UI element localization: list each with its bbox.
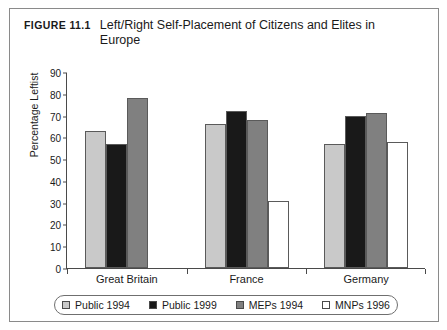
y-axis-tick-mark: [63, 116, 67, 117]
bar: [268, 201, 289, 269]
legend-item: Public 1994: [62, 299, 130, 311]
bar: [247, 120, 268, 268]
y-axis-tick-label: 10: [33, 242, 67, 253]
chart-legend: Public 1994Public 1999MEPs 1994MNPs 1996: [54, 295, 398, 315]
bar-group: [85, 72, 169, 268]
x-axis-group-label: Germany: [286, 273, 446, 285]
bar-group: [205, 72, 289, 268]
y-axis-tick-mark: [63, 247, 67, 248]
bar: [387, 142, 408, 268]
y-axis-tick-mark: [63, 225, 67, 226]
legend-swatch-icon: [62, 301, 70, 309]
bar: [226, 111, 247, 268]
y-axis-tick-label: 30: [33, 198, 67, 209]
bar: [345, 116, 366, 268]
legend-label: Public 1999: [162, 299, 217, 311]
y-axis-tick-label: 70: [33, 111, 67, 122]
y-axis-tick-mark: [63, 203, 67, 204]
x-axis-tick-mark: [67, 269, 68, 274]
y-axis-tick-label: 50: [33, 155, 67, 166]
y-axis-tick-mark: [63, 181, 67, 182]
legend-label: Public 1994: [75, 299, 130, 311]
bar: [324, 144, 345, 268]
legend-label: MEPs 1994: [249, 299, 303, 311]
bar: [366, 113, 387, 268]
x-axis-tick-mark: [306, 269, 307, 274]
y-axis-tick-mark: [63, 160, 67, 161]
legend-swatch-icon: [149, 301, 157, 309]
legend-item: MEPs 1994: [236, 299, 303, 311]
legend-item: MNPs 1996: [322, 299, 390, 311]
x-axis-tick-mark: [425, 269, 426, 274]
bar: [127, 98, 148, 268]
y-axis-tick-label: 80: [33, 89, 67, 100]
y-axis-tick-mark: [63, 138, 67, 139]
y-axis-tick-label: 60: [33, 133, 67, 144]
y-axis-tick-mark: [63, 73, 67, 74]
x-axis-tick-mark: [187, 269, 188, 274]
y-axis-tick-label: 40: [33, 176, 67, 187]
legend-item: Public 1999: [149, 299, 217, 311]
plot-area: 0102030405060708090Great BritainFranceGe…: [66, 73, 425, 269]
bar: [106, 144, 127, 268]
legend-swatch-icon: [322, 301, 330, 309]
bar-group: [324, 72, 408, 268]
legend-label: MNPs 1996: [335, 299, 390, 311]
bar: [85, 131, 106, 268]
figure-frame: Figure 11.1 Left/Right Self-Placement of…: [9, 8, 439, 322]
bar-chart: Percentage Leftist 0102030405060708090Gr…: [10, 9, 440, 323]
y-axis-tick-mark: [63, 94, 67, 95]
bar: [205, 124, 226, 268]
legend-swatch-icon: [236, 301, 244, 309]
y-axis-tick-label: 90: [33, 68, 67, 79]
y-axis-tick-label: 20: [33, 220, 67, 231]
